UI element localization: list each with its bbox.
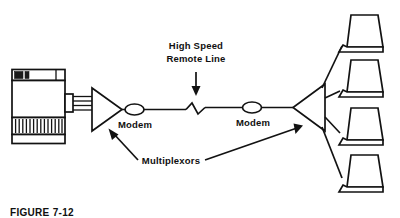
callout-arrowhead-down xyxy=(192,86,201,96)
high-speed-label-line1: High Speed xyxy=(169,40,223,51)
multiplexor-right xyxy=(293,84,325,131)
terminal-1-screen xyxy=(347,15,383,47)
tape-drive-reel-2 xyxy=(25,72,29,79)
modem-left-symbol xyxy=(125,104,144,115)
fanout-line-4 xyxy=(322,127,342,178)
mainframe-vent-panel xyxy=(12,118,65,135)
fanout-line-3 xyxy=(325,117,340,133)
fanout-line-2 xyxy=(325,91,340,98)
modem-right-label: Modem xyxy=(236,117,270,128)
figure-caption: FIGURE 7-12 xyxy=(10,207,74,218)
network-diagram: High Speed Remote Line Modem Modem Multi… xyxy=(0,0,400,218)
terminal-2 xyxy=(339,60,383,97)
mainframe-bus-lines xyxy=(73,97,92,111)
terminal-2-screen xyxy=(347,60,383,92)
mainframe-connector-stub xyxy=(65,94,73,112)
modem-left-label: Modem xyxy=(118,119,152,130)
terminal-1 xyxy=(339,15,383,52)
remote-line-path xyxy=(122,103,293,114)
tape-drive-reel-1 xyxy=(15,72,24,79)
multiplexors-label: Multiplexors xyxy=(142,155,200,166)
line-break-symbol xyxy=(186,103,205,114)
mainframe-base-plinth xyxy=(12,135,65,144)
terminal-4-screen xyxy=(347,155,383,187)
modem-right-symbol xyxy=(243,102,262,113)
callout-arrowhead-right-mux xyxy=(294,124,304,135)
figure-container: High Speed Remote Line Modem Modem Multi… xyxy=(0,0,400,218)
high-speed-line-callout-arrow xyxy=(192,72,201,96)
terminal-3-screen xyxy=(347,108,383,140)
mainframe-body-panel xyxy=(12,81,65,118)
high-speed-label-line2: Remote Line xyxy=(166,53,225,64)
terminal-3 xyxy=(339,108,383,145)
mainframe-computer xyxy=(12,70,73,144)
terminal-4 xyxy=(339,155,383,192)
